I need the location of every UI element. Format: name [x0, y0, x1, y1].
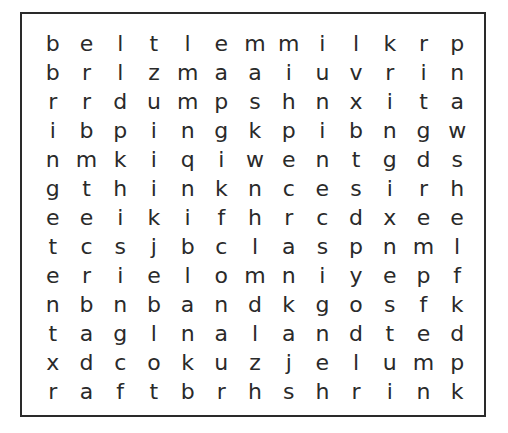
letter-cell[interactable]: u	[204, 348, 238, 377]
letter-cell[interactable]: i	[103, 261, 137, 290]
letter-cell[interactable]: n	[171, 174, 205, 203]
letter-cell[interactable]: m	[171, 87, 205, 116]
letter-cell[interactable]: t	[137, 29, 171, 58]
letter-cell[interactable]: k	[238, 116, 272, 145]
letter-cell[interactable]: p	[407, 261, 441, 290]
letter-cell[interactable]: e	[272, 145, 306, 174]
letter-cell[interactable]: s	[272, 377, 306, 406]
letter-cell[interactable]: r	[36, 377, 70, 406]
letter-cell[interactable]: n	[171, 319, 205, 348]
letter-cell[interactable]: d	[339, 203, 373, 232]
letter-cell[interactable]: b	[70, 290, 104, 319]
letter-cell[interactable]: w	[238, 145, 272, 174]
letter-cell[interactable]: k	[103, 145, 137, 174]
letter-cell[interactable]: a	[70, 319, 104, 348]
letter-cell[interactable]: m	[238, 29, 272, 58]
letter-cell[interactable]: v	[339, 58, 373, 87]
letter-cell[interactable]: n	[373, 232, 407, 261]
letter-cell[interactable]: d	[103, 87, 137, 116]
letter-cell[interactable]: e	[70, 203, 104, 232]
letter-cell[interactable]: i	[306, 261, 340, 290]
letter-cell[interactable]: m	[171, 58, 205, 87]
letter-cell[interactable]: i	[306, 29, 340, 58]
letter-cell[interactable]: f	[440, 261, 474, 290]
letter-cell[interactable]: g	[306, 290, 340, 319]
letter-cell[interactable]: i	[36, 116, 70, 145]
letter-cell[interactable]: k	[373, 29, 407, 58]
letter-cell[interactable]: r	[373, 58, 407, 87]
letter-cell[interactable]: x	[36, 348, 70, 377]
letter-cell[interactable]: a	[204, 319, 238, 348]
letter-cell[interactable]: i	[204, 145, 238, 174]
letter-cell[interactable]: s	[440, 145, 474, 174]
letter-cell[interactable]: i	[103, 203, 137, 232]
letter-cell[interactable]: e	[137, 261, 171, 290]
letter-cell[interactable]: b	[171, 232, 205, 261]
letter-cell[interactable]: e	[204, 29, 238, 58]
letter-cell[interactable]: d	[339, 319, 373, 348]
letter-cell[interactable]: l	[171, 29, 205, 58]
letter-cell[interactable]: l	[103, 58, 137, 87]
letter-cell[interactable]: e	[407, 319, 441, 348]
letter-cell[interactable]: i	[407, 58, 441, 87]
letter-cell[interactable]: c	[70, 232, 104, 261]
letter-cell[interactable]: l	[137, 319, 171, 348]
letter-cell[interactable]: p	[339, 232, 373, 261]
letter-cell[interactable]: t	[137, 377, 171, 406]
letter-cell[interactable]: k	[137, 203, 171, 232]
letter-cell[interactable]: b	[137, 290, 171, 319]
letter-cell[interactable]: m	[70, 145, 104, 174]
letter-cell[interactable]: p	[103, 116, 137, 145]
letter-cell[interactable]: u	[373, 348, 407, 377]
letter-cell[interactable]: b	[36, 58, 70, 87]
letter-cell[interactable]: h	[440, 174, 474, 203]
letter-cell[interactable]: i	[306, 116, 340, 145]
letter-cell[interactable]: e	[373, 261, 407, 290]
letter-cell[interactable]: a	[238, 58, 272, 87]
letter-cell[interactable]: g	[36, 174, 70, 203]
letter-cell[interactable]: z	[137, 58, 171, 87]
letter-cell[interactable]: i	[272, 58, 306, 87]
letter-cell[interactable]: r	[36, 87, 70, 116]
letter-cell[interactable]: n	[407, 377, 441, 406]
letter-cell[interactable]: i	[137, 174, 171, 203]
letter-cell[interactable]: h	[238, 377, 272, 406]
letter-cell[interactable]: o	[204, 261, 238, 290]
letter-cell[interactable]: n	[306, 87, 340, 116]
letter-cell[interactable]: l	[171, 261, 205, 290]
letter-cell[interactable]: r	[407, 29, 441, 58]
letter-cell[interactable]: e	[70, 29, 104, 58]
letter-cell[interactable]: c	[272, 174, 306, 203]
letter-cell[interactable]: t	[373, 319, 407, 348]
letter-cell[interactable]: r	[339, 377, 373, 406]
letter-cell[interactable]: e	[407, 203, 441, 232]
letter-cell[interactable]: p	[440, 348, 474, 377]
letter-cell[interactable]: h	[103, 174, 137, 203]
letter-cell[interactable]: k	[440, 290, 474, 319]
letter-cell[interactable]: m	[272, 29, 306, 58]
letter-cell[interactable]: r	[272, 203, 306, 232]
letter-cell[interactable]: i	[373, 87, 407, 116]
letter-cell[interactable]: b	[36, 29, 70, 58]
letter-cell[interactable]: g	[204, 116, 238, 145]
letter-cell[interactable]: p	[204, 87, 238, 116]
letter-cell[interactable]: a	[204, 58, 238, 87]
letter-cell[interactable]: n	[204, 290, 238, 319]
letter-cell[interactable]: a	[272, 232, 306, 261]
letter-cell[interactable]: a	[171, 290, 205, 319]
letter-cell[interactable]: s	[339, 174, 373, 203]
letter-cell[interactable]: n	[373, 116, 407, 145]
letter-cell[interactable]: c	[204, 232, 238, 261]
letter-cell[interactable]: d	[70, 348, 104, 377]
letter-cell[interactable]: k	[272, 290, 306, 319]
letter-cell[interactable]: r	[407, 174, 441, 203]
letter-cell[interactable]: a	[440, 87, 474, 116]
letter-cell[interactable]: g	[407, 116, 441, 145]
letter-cell[interactable]: t	[339, 145, 373, 174]
letter-cell[interactable]: j	[137, 232, 171, 261]
letter-cell[interactable]: n	[36, 290, 70, 319]
letter-cell[interactable]: m	[407, 232, 441, 261]
letter-cell[interactable]: k	[171, 348, 205, 377]
letter-cell[interactable]: f	[204, 203, 238, 232]
letter-cell[interactable]: b	[70, 116, 104, 145]
